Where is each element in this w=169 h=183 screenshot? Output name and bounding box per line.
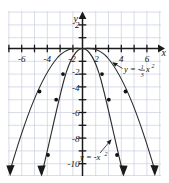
y-tick-label--8: -8	[72, 134, 80, 144]
y-tick-label--2: -2	[72, 67, 80, 77]
x-tick-label-2: 2	[94, 54, 99, 64]
y-tick-label--6: -6	[72, 108, 80, 118]
point-wide-right-mid	[124, 90, 128, 94]
y-axis-label: y	[73, 13, 79, 24]
x-tick-label-4: 4	[119, 54, 124, 64]
wide-curve-label-lead: y = -	[123, 64, 141, 74]
point-narrow-left-mid	[54, 98, 58, 102]
y-tick-label--10: -10	[68, 159, 80, 169]
parabola-plot-svg: -6 -4 -2 2 4 6 2 -2 -4 -6 -8 -10 y x y =…	[0, 0, 169, 183]
point-narrow-left-inner	[61, 72, 65, 76]
point-wide-left-mid	[38, 90, 42, 94]
x-tick-label--2: -2	[68, 54, 76, 64]
wide-curve-label-variable: x	[145, 64, 150, 74]
wide-curve-label-exponent: 2	[152, 63, 155, 69]
x-tick-label--4: -4	[44, 54, 52, 64]
point-narrow-left-outer	[46, 153, 50, 157]
y-tick-label--4: -4	[72, 83, 80, 93]
point-narrow-right-mid	[107, 98, 111, 102]
wide-curve-label-frac-denominator: 3	[140, 72, 144, 78]
x-tick-label-6: 6	[145, 54, 150, 64]
narrow-curve-label-exponent: 2	[105, 151, 108, 157]
narrow-curve-label-lead: y = -x	[79, 152, 101, 162]
point-narrow-right-inner	[100, 72, 104, 76]
x-axis-label: x	[161, 47, 167, 58]
graph-figure: -6 -4 -2 2 4 6 2 -2 -4 -6 -8 -10 y x y =…	[0, 0, 169, 183]
point-narrow-right-outer	[115, 153, 119, 157]
x-tick-label--6: -6	[18, 54, 26, 64]
wide-curve-label-frac-numerator: 1	[141, 64, 144, 70]
